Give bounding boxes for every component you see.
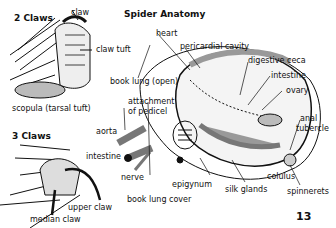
heart-label: heart bbox=[156, 29, 177, 38]
intestine-abdomen-label: intestine bbox=[271, 71, 306, 80]
three-claws-heading: 3 Claws bbox=[12, 132, 51, 141]
pericardial-cavity-label: pericardial cavity bbox=[180, 42, 249, 51]
anal-label: anal bbox=[300, 114, 317, 123]
nerve-label: nerve bbox=[121, 173, 144, 182]
tubercle-label: tubercle bbox=[296, 124, 329, 133]
median-claw-label: median claw bbox=[30, 215, 81, 224]
diagram-title: Spider Anatomy bbox=[124, 10, 205, 19]
claw-tuft-label: claw tuft bbox=[96, 45, 131, 54]
page-number: 13 bbox=[296, 212, 311, 221]
spinnerets-label: spinnerets bbox=[287, 187, 329, 196]
aorta-label: aorta bbox=[96, 127, 117, 136]
digestive-ceca-label: digestive ceca bbox=[248, 56, 306, 65]
claw-label: claw bbox=[71, 8, 89, 17]
two-claws-illustration bbox=[10, 10, 92, 98]
intestine-label: intestine bbox=[86, 152, 121, 161]
silk-glands-label: silk glands bbox=[225, 185, 267, 194]
two-claws-heading: 2 Claws bbox=[14, 14, 53, 23]
attachment-label: attachment bbox=[128, 97, 174, 106]
ovary-label: ovary bbox=[286, 86, 309, 95]
scopula-label: scopula (tarsal tuft) bbox=[12, 104, 91, 113]
epigynum-label: epigynum bbox=[172, 180, 212, 189]
pedicel-illustration bbox=[118, 128, 152, 170]
colulus-label: colulus bbox=[267, 172, 295, 181]
spider-anatomy-diagram: 2 Claws claw claw tuft scopula (tarsal t… bbox=[0, 0, 336, 228]
book-lung-cover-label: book lung cover bbox=[127, 195, 191, 204]
of-pedicel-label: of pedicel bbox=[128, 107, 167, 116]
book-lung-open-label: book lung (open) bbox=[110, 77, 178, 86]
upper-claw-label: upper claw bbox=[68, 203, 112, 212]
